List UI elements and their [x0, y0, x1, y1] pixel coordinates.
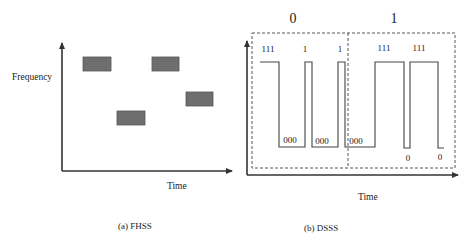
hop-block-1: [83, 57, 111, 71]
fhss-caption: (a) FHSS: [118, 221, 152, 231]
data-bit-0-label: 0: [290, 11, 297, 26]
chip-label-6: 000: [349, 136, 363, 146]
fhss-panel: Frequency Time (a) FHSS: [12, 43, 232, 231]
chip-labels: 1111100000000011111100: [262, 43, 443, 163]
chip-label-2: 1: [303, 44, 308, 54]
fhss-y-label: Frequency: [12, 72, 52, 82]
fhss-x-label: Time: [167, 181, 187, 191]
frequency-hop-blocks: [83, 57, 213, 125]
hop-block-4: [186, 92, 213, 106]
chip-label-3: 1: [338, 44, 343, 54]
chip-label-9: 0: [406, 153, 411, 163]
chip-label-5: 000: [315, 136, 329, 146]
data-bit-1-label: 1: [391, 11, 398, 26]
hop-block-2: [117, 111, 145, 125]
hop-block-3: [152, 57, 179, 71]
dsss-panel: 1111100000000011111100 0 1 Time (b) DSSS: [247, 11, 458, 233]
chip-label-8: 111: [413, 43, 426, 53]
spread-spectrum-figure: Frequency Time (a) FHSS 1111100000000011…: [0, 0, 468, 243]
dsss-x-label: Time: [358, 192, 378, 202]
chip-label-1: 111: [262, 44, 275, 54]
chip-label-4: 000: [283, 135, 297, 145]
chip-label-10: 0: [438, 152, 443, 162]
dsss-dashed-frame: [252, 33, 455, 168]
chip-label-7: 111: [378, 43, 391, 53]
dsss-caption: (b) DSSS: [304, 223, 338, 233]
